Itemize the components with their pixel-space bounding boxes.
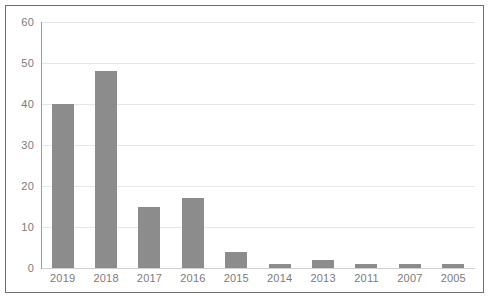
- x-tick-label: 2018: [93, 272, 118, 284]
- bar-slot: [41, 22, 84, 268]
- bar-slot: [432, 22, 475, 268]
- bar-2015[interactable]: [225, 252, 247, 268]
- x-tick-label: 2007: [397, 272, 422, 284]
- x-tick-label: 2019: [50, 272, 75, 284]
- y-axis: 0102030405060: [0, 0, 41, 299]
- bar-2011[interactable]: [355, 264, 377, 268]
- x-tick-label: 2014: [267, 272, 292, 284]
- y-tick-label: 40: [21, 98, 34, 110]
- bar-slot: [258, 22, 301, 268]
- y-tick-label: 20: [21, 180, 34, 192]
- bar-slot: [301, 22, 344, 268]
- bar-2013[interactable]: [312, 260, 334, 268]
- y-tick-label: 30: [21, 139, 34, 151]
- bar-2016[interactable]: [182, 198, 204, 268]
- bar-chart: 0102030405060 20192018201720162015201420…: [0, 0, 489, 299]
- x-tick-label: 2016: [180, 272, 205, 284]
- bar-2007[interactable]: [399, 264, 421, 268]
- bar-slot: [171, 22, 214, 268]
- bar-slot: [388, 22, 431, 268]
- bar-2014[interactable]: [269, 264, 291, 268]
- x-tick-label: 2015: [224, 272, 249, 284]
- x-tick-label: 2013: [310, 272, 335, 284]
- bar-2018[interactable]: [95, 71, 117, 268]
- x-tick-label: 2017: [137, 272, 162, 284]
- bar-2017[interactable]: [138, 207, 160, 269]
- bar-slot: [345, 22, 388, 268]
- y-tick-label: 0: [28, 262, 34, 274]
- bar-slot: [128, 22, 171, 268]
- x-axis: 2019201820172016201520142013201120072005: [41, 269, 475, 293]
- y-tick-label: 10: [21, 221, 34, 233]
- x-tick-label: 2005: [441, 272, 466, 284]
- x-tick-label: 2011: [354, 272, 378, 284]
- bar-slot: [215, 22, 258, 268]
- bar-slot: [84, 22, 127, 268]
- bar-2005[interactable]: [442, 264, 464, 268]
- bar-2019[interactable]: [52, 104, 74, 268]
- bars-layer: [41, 22, 475, 268]
- y-tick-label: 60: [21, 16, 34, 28]
- y-tick-label: 50: [21, 57, 34, 69]
